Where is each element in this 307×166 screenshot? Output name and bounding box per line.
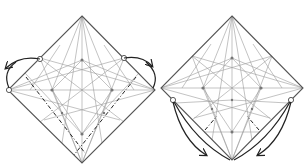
arrow-right-swing-icon [146,62,155,88]
step-left [6,16,155,163]
corner-marker-left-edge [6,87,11,92]
arrow-right-up-icon [124,57,152,66]
diagram-canvas [0,0,307,166]
point-marker-left [170,97,175,102]
valley-folds [26,77,136,155]
origami-diagram [0,0,307,166]
step-right [161,16,303,160]
crease-lines [161,16,303,160]
crease-lines [8,16,155,163]
point-marker-right [288,97,293,102]
